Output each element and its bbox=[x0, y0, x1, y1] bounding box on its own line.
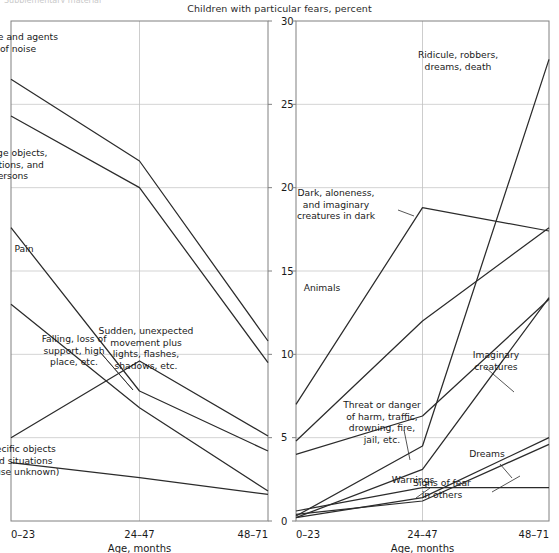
series-label: Dark, aloneness,and imaginarycreatures i… bbox=[297, 187, 376, 221]
ytick-label-15: 15 bbox=[281, 266, 294, 277]
figure-root: Supplementary material Children with par… bbox=[0, 0, 559, 553]
series-label: Falling, loss ofsupport, highplace, etc. bbox=[42, 333, 108, 367]
series-label: Noise and agentsof noise bbox=[0, 31, 58, 54]
panel-right: 0–2324–4748–71Age, monthsRidicule, robbe… bbox=[292, 21, 549, 553]
xtick-label-1: 24–47 bbox=[407, 529, 437, 540]
series-label: Animals bbox=[304, 282, 341, 293]
series-label: Ridicule, robbers,dreams, death bbox=[418, 49, 498, 72]
label-leader-line bbox=[492, 476, 520, 492]
label-leader-line bbox=[398, 210, 414, 216]
xtick-label-1: 24–47 bbox=[124, 529, 154, 540]
series-label: Imaginarycreatures bbox=[473, 349, 520, 372]
panel-left: 0510152025300–2324–4748–71Age, monthsNoi… bbox=[0, 16, 294, 553]
ytick-label-25: 25 bbox=[281, 99, 294, 110]
x-axis-title: Age, months bbox=[108, 543, 171, 553]
series-label: Strange objects,situations, andpersons bbox=[0, 147, 48, 181]
series-label: Pain bbox=[14, 243, 33, 254]
ytick-label-30: 30 bbox=[281, 16, 294, 27]
series-label: Sudden, unexpectedmovement pluslights, f… bbox=[99, 325, 194, 371]
label-leader-line bbox=[486, 368, 514, 392]
series-label: Specific objectsand situations(cause unk… bbox=[0, 443, 59, 477]
xtick-label-2: 48–71 bbox=[238, 529, 268, 540]
fear-percent-line-charts: 0510152025300–2324–4748–71Age, monthsNoi… bbox=[0, 0, 559, 553]
series-label: Warnings bbox=[392, 474, 435, 485]
label-leader-line bbox=[500, 464, 512, 478]
ytick-label-5: 5 bbox=[281, 432, 287, 443]
xtick-label-0: 0–23 bbox=[11, 529, 35, 540]
ytick-label-10: 10 bbox=[281, 349, 294, 360]
xtick-label-2: 48–71 bbox=[519, 529, 549, 540]
series-label: Dreams bbox=[469, 448, 505, 459]
x-axis-title: Age, months bbox=[391, 543, 454, 553]
ytick-label-0: 0 bbox=[281, 516, 287, 527]
xtick-label-0: 0–23 bbox=[296, 529, 320, 540]
ytick-label-20: 20 bbox=[281, 182, 294, 193]
